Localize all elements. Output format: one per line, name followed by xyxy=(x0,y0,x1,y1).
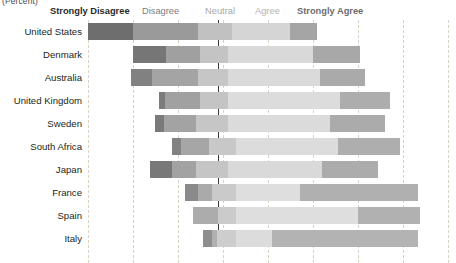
legend-item-neutral: Neutral xyxy=(205,5,235,18)
legend-item-strongly-agree: Strongly Agree xyxy=(297,5,363,18)
bar-segment-strongly-agree xyxy=(338,138,400,155)
bar-segment-neutral xyxy=(196,115,228,132)
bar-segment-disagree xyxy=(198,184,212,201)
bar-segment-neutral xyxy=(200,92,228,109)
bar-segment-disagree xyxy=(164,115,196,132)
bar-segment-disagree xyxy=(152,69,198,86)
bar-segment-disagree xyxy=(181,138,209,155)
bar-row: Spain xyxy=(0,204,456,227)
bar-segment-agree xyxy=(228,92,340,109)
category-label-united-kingdom: United Kingdom xyxy=(0,89,82,112)
category-label-italy: Italy xyxy=(0,227,82,250)
bar-segment-strongly-disagree xyxy=(88,23,133,40)
bar-segment-agree xyxy=(228,161,322,178)
bar-segment-strongly-agree xyxy=(340,92,390,109)
bar-segment-neutral xyxy=(212,184,236,201)
bar-segment-strongly-agree xyxy=(322,161,378,178)
category-label-sweden: Sweden xyxy=(0,112,82,135)
bar-row: Japan xyxy=(0,158,456,181)
bar-segment-strongly-agree xyxy=(300,184,418,201)
bar-segment-agree xyxy=(236,207,358,224)
bar-segment-agree xyxy=(236,184,300,201)
legend-item-strongly-disagree: Strongly Disagree xyxy=(50,5,130,18)
likert-chart: (Percent) Strongly Disagree Disagree Neu… xyxy=(0,0,456,263)
bar-segment-strongly-disagree xyxy=(150,161,172,178)
category-label-spain: Spain xyxy=(0,204,82,227)
bar-segment-disagree xyxy=(193,207,218,224)
category-label-australia: Australia xyxy=(0,66,82,89)
bar-segment-disagree xyxy=(133,23,198,40)
bar-segment-neutral xyxy=(198,69,228,86)
bar-segment-strongly-disagree xyxy=(133,46,166,63)
bar-row: Australia xyxy=(0,66,456,89)
bar-segment-strongly-disagree xyxy=(131,69,152,86)
bar-row: Italy xyxy=(0,227,456,250)
bar-segment-neutral xyxy=(217,230,236,247)
bar-segment-agree xyxy=(228,46,313,63)
bar-segment-strongly-disagree xyxy=(185,184,198,201)
legend-item-agree: Agree xyxy=(255,5,280,18)
bar-segment-strongly-disagree xyxy=(155,115,164,132)
bar-row: United States xyxy=(0,20,456,43)
category-label-united-states: United States xyxy=(0,20,82,43)
bar-segment-agree xyxy=(232,23,290,40)
bar-row: France xyxy=(0,181,456,204)
bar-segment-disagree xyxy=(166,46,200,63)
plot-area: United StatesDenmarkAustraliaUnited King… xyxy=(0,20,456,263)
bar-segment-strongly-agree xyxy=(320,69,365,86)
bar-segment-strongly-disagree xyxy=(172,138,181,155)
bar-segment-strongly-agree xyxy=(290,23,317,40)
category-label-japan: Japan xyxy=(0,158,82,181)
bar-segment-neutral xyxy=(218,207,236,224)
bar-segment-strongly-agree xyxy=(313,46,360,63)
bar-row: United Kingdom xyxy=(0,89,456,112)
category-label-south-africa: South Africa xyxy=(0,135,82,158)
bar-segment-neutral xyxy=(200,46,228,63)
bar-segment-disagree xyxy=(165,92,200,109)
category-label-denmark: Denmark xyxy=(0,43,82,66)
legend-item-disagree: Disagree xyxy=(142,5,179,18)
bar-segment-strongly-agree xyxy=(330,115,385,132)
bar-row: South Africa xyxy=(0,135,456,158)
bar-segment-strongly-agree xyxy=(272,230,418,247)
bar-segment-neutral xyxy=(209,138,236,155)
chart-legend: Strongly Disagree Disagree Neutral Agree… xyxy=(0,5,456,20)
bar-segment-strongly-disagree xyxy=(203,230,212,247)
bar-row: Denmark xyxy=(0,43,456,66)
bar-segment-agree xyxy=(228,115,330,132)
bar-segment-neutral xyxy=(196,161,228,178)
bar-segment-agree xyxy=(228,69,320,86)
bar-segment-disagree xyxy=(172,161,196,178)
bar-segment-agree xyxy=(236,138,338,155)
bar-segment-agree xyxy=(236,230,272,247)
bar-segment-neutral xyxy=(198,23,232,40)
category-label-france: France xyxy=(0,181,82,204)
bar-row: Sweden xyxy=(0,112,456,135)
bar-segment-strongly-agree xyxy=(358,207,420,224)
